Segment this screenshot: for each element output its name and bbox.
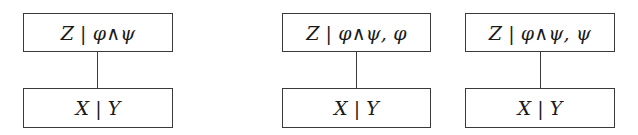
- node-right-label: φ∧ψ: [93, 22, 136, 44]
- node-left-label: Z: [61, 22, 74, 44]
- node-separator: |: [537, 97, 544, 119]
- node-left-label: Z: [489, 22, 502, 44]
- edge-line: [356, 52, 357, 88]
- bottom-node: X | Y: [282, 88, 431, 128]
- node-left-label: X: [517, 97, 531, 119]
- node-left-label: Z: [306, 22, 319, 44]
- top-node: Z | φ∧ψ: [23, 13, 173, 52]
- node-right-label: φ∧ψ, φ: [338, 22, 407, 44]
- top-node: Z | φ∧ψ, ψ: [465, 13, 615, 52]
- node-separator: |: [95, 97, 102, 119]
- node-right-label: Y: [550, 97, 563, 119]
- node-right-label: φ∧ψ, ψ: [521, 22, 591, 44]
- node-right-label: Y: [108, 97, 121, 119]
- top-node: Z | φ∧ψ, φ: [282, 13, 431, 52]
- bottom-node: X | Y: [465, 88, 615, 128]
- bottom-node: X | Y: [23, 88, 173, 128]
- node-left-label: X: [334, 97, 348, 119]
- edge-line: [540, 52, 541, 88]
- node-separator: |: [80, 22, 87, 44]
- edge-line: [97, 52, 98, 88]
- node-left-label: X: [75, 97, 89, 119]
- node-right-label: Y: [366, 97, 379, 119]
- node-separator: |: [326, 22, 333, 44]
- node-separator: |: [508, 22, 515, 44]
- node-separator: |: [354, 97, 361, 119]
